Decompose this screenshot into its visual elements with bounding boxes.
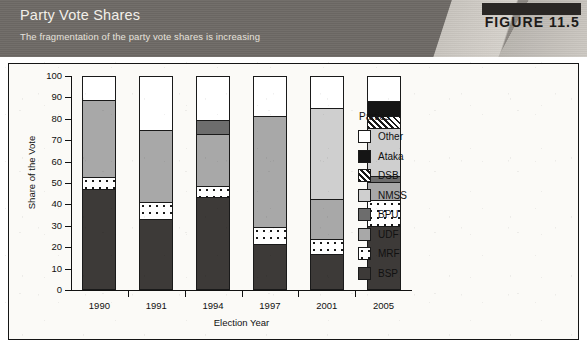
figure-number-label: FIGURE 11.5 xyxy=(460,15,580,29)
y-axis-tick-label-text: 100 xyxy=(16,71,62,80)
x-axis-title: Election Year xyxy=(71,317,412,328)
bar-segment-2005-other[interactable] xyxy=(367,76,401,101)
bar-segment-1997-udf[interactable] xyxy=(253,116,287,227)
bar-segment-1990-mrf[interactable] xyxy=(82,177,116,190)
bar-segment-1991-mrf[interactable] xyxy=(139,202,173,219)
bar-segment-1997-bsp[interactable] xyxy=(253,244,287,290)
bar-segment-1991-udf[interactable] xyxy=(139,130,173,203)
y-axis-tick-label-text: 60 xyxy=(16,157,62,166)
x-axis-tick-label: 1994 xyxy=(183,300,243,311)
y-axis-tick-label: 0 xyxy=(9,285,62,294)
figure-title: Party Vote Shares xyxy=(20,7,140,23)
x-axis-tick xyxy=(298,291,299,297)
x-axis-tick-label: 1990 xyxy=(69,300,129,311)
stacked-bar-2001[interactable] xyxy=(310,76,344,290)
stacked-bar-1997[interactable] xyxy=(253,76,287,290)
y-axis-tick-label-text: 40 xyxy=(16,199,62,208)
figure-subtitle: The fragmentation of the party vote shar… xyxy=(20,31,260,42)
bar-segment-1994-mrf[interactable] xyxy=(196,186,230,197)
y-axis-tick-label-text: 30 xyxy=(16,221,62,230)
x-axis-tick-label: 2001 xyxy=(297,300,357,311)
bar-segment-1997-mrf[interactable] xyxy=(253,227,287,244)
legend: Parties OtherAtakaDSBNMSSBPUUDFMRFBSP xyxy=(358,111,478,284)
plot-frame: 0102030405060708090100 Share of the Vote… xyxy=(8,63,579,340)
y-axis-tick-label-text: 70 xyxy=(16,135,62,144)
y-axis-tick-label-text: 90 xyxy=(16,92,62,101)
legend-items: OtherAtakaDSBNMSSBPUUDFMRFBSP xyxy=(358,128,478,282)
bar-segment-1994-bsp[interactable] xyxy=(196,197,230,290)
y-axis-tick xyxy=(65,247,71,248)
y-axis-tick xyxy=(65,183,71,184)
legend-label-udf: UDF xyxy=(378,229,399,240)
bar-segment-1994-other[interactable] xyxy=(196,76,230,120)
y-axis-tick xyxy=(65,119,71,120)
x-axis-tick xyxy=(242,291,243,297)
x-axis-tick-label: 1991 xyxy=(126,300,186,311)
bar-segment-1990-udf[interactable] xyxy=(82,100,116,177)
legend-label-bpu: BPU xyxy=(378,209,399,220)
legend-item-dsb[interactable]: DSB xyxy=(358,167,478,184)
bar-segment-2001-mrf[interactable] xyxy=(310,239,344,254)
bar-segment-2001-udf[interactable] xyxy=(310,199,344,239)
y-axis-tick xyxy=(65,226,71,227)
bar-segment-1990-other[interactable] xyxy=(82,76,116,100)
legend-label-dsb: DSB xyxy=(378,170,399,181)
y-axis-tick-label: 10 xyxy=(9,264,62,273)
legend-label-other: Other xyxy=(378,131,403,142)
bar-segment-1994-udf[interactable] xyxy=(196,134,230,186)
y-axis-tick xyxy=(65,204,71,205)
legend-swatch-other xyxy=(358,130,371,143)
figure-header: FIGURE 11.5 Party Vote Shares The fragme… xyxy=(0,0,587,57)
legend-item-udf[interactable]: UDF xyxy=(358,226,478,243)
bar-segment-1991-other[interactable] xyxy=(139,76,173,130)
bar-segment-2001-nmss[interactable] xyxy=(310,108,344,199)
legend-item-other[interactable]: Other xyxy=(358,128,478,145)
bar-segment-1994-bpu[interactable] xyxy=(196,120,230,134)
legend-label-ataka: Ataka xyxy=(378,151,404,162)
stacked-bar-1991[interactable] xyxy=(139,76,173,290)
y-axis-tick-label: 20 xyxy=(9,242,62,251)
legend-swatch-bpu xyxy=(358,208,371,221)
legend-item-bpu[interactable]: BPU xyxy=(358,206,478,223)
legend-item-mrf[interactable]: MRF xyxy=(358,245,478,262)
x-axis-tick xyxy=(185,291,186,297)
y-axis-tick-label-text: 10 xyxy=(16,264,62,273)
legend-swatch-ataka xyxy=(358,150,371,163)
legend-item-bsp[interactable]: BSP xyxy=(358,265,478,282)
x-axis-tick-label: 1997 xyxy=(240,300,300,311)
bar-segment-2001-bsp[interactable] xyxy=(310,254,344,290)
y-axis-tick-label: 100 xyxy=(9,71,62,80)
y-axis-tick xyxy=(65,290,71,291)
legend-swatch-bsp xyxy=(358,267,371,280)
stacked-bar-1994[interactable] xyxy=(196,76,230,290)
y-axis-tick xyxy=(65,162,71,163)
y-axis-tick-label: 90 xyxy=(9,92,62,101)
x-axis-tick xyxy=(355,291,356,297)
y-axis-tick-label-text: 50 xyxy=(16,178,62,187)
figure-body: 0102030405060708090100 Share of the Vote… xyxy=(0,57,587,348)
y-axis-tick xyxy=(65,76,71,77)
legend-swatch-dsb xyxy=(358,169,371,182)
stacked-bar-1990[interactable] xyxy=(82,76,116,290)
y-axis-tick-label-text: 0 xyxy=(16,285,62,294)
bar-segment-1991-bsp[interactable] xyxy=(139,219,173,290)
bar-segment-2001-other[interactable] xyxy=(310,76,344,108)
y-axis-title: Share of the Vote xyxy=(26,113,37,233)
legend-label-bsp: BSP xyxy=(378,268,398,279)
legend-title: Parties xyxy=(359,111,478,122)
legend-label-mrf: MRF xyxy=(378,248,400,259)
y-axis-tick xyxy=(65,140,71,141)
y-axis-tick xyxy=(65,97,71,98)
x-axis-tick xyxy=(128,291,129,297)
x-axis-tick-label: 2005 xyxy=(354,300,414,311)
bar-segment-1990-bsp[interactable] xyxy=(82,189,116,290)
legend-swatch-mrf xyxy=(358,247,371,260)
bar-segment-1997-other[interactable] xyxy=(253,76,287,116)
y-axis-tick-label-text: 20 xyxy=(16,242,62,251)
legend-label-nmss: NMSS xyxy=(378,190,407,201)
legend-swatch-nmss xyxy=(358,189,371,202)
legend-item-nmss[interactable]: NMSS xyxy=(358,187,478,204)
legend-swatch-udf xyxy=(358,228,371,241)
legend-item-ataka[interactable]: Ataka xyxy=(358,148,478,165)
plot-area: 0102030405060708090100 Share of the Vote… xyxy=(9,64,580,341)
